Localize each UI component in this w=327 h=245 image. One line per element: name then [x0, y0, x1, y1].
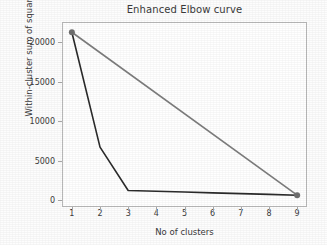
y-tick-label: 0 — [15, 195, 55, 204]
chart-data-layer — [62, 22, 307, 207]
x-tick-mark — [269, 207, 270, 211]
y-tick-label: 15000 — [15, 77, 55, 86]
x-tick-mark — [72, 207, 73, 211]
y-axis-label: Within-cluster sum of squares — [24, 0, 34, 133]
x-tick-mark — [297, 207, 298, 211]
y-tick-label: 5000 — [15, 156, 55, 165]
x-tick-mark — [100, 207, 101, 211]
x-tick-mark — [185, 207, 186, 211]
x-tick-mark — [213, 207, 214, 211]
x-tick-mark — [128, 207, 129, 211]
chart-title: Enhanced Elbow curve — [62, 4, 307, 15]
x-tick-mark — [241, 207, 242, 211]
series-line-reference-line — [72, 32, 297, 195]
y-tick-label: 20000 — [15, 38, 55, 47]
y-tick-label: 10000 — [15, 117, 55, 126]
chart-screenshot: Enhanced Elbow curve Within-cluster sum … — [0, 0, 327, 245]
x-axis-label: No of clusters — [62, 227, 307, 237]
data-point-marker — [294, 192, 300, 198]
x-tick-mark — [156, 207, 157, 211]
data-point-marker — [69, 29, 75, 35]
